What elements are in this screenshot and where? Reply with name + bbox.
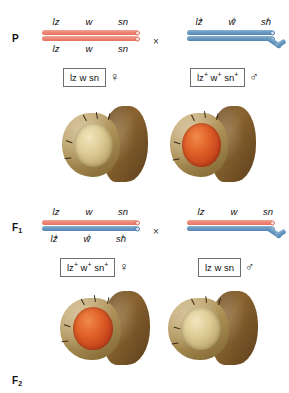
gene-label-sn: sn+ <box>266 16 270 28</box>
chromosome-x-maternal <box>42 220 138 225</box>
generation-label-p-text: P <box>12 33 19 44</box>
chromosome-x-maternal-2 <box>42 36 138 41</box>
parent-p-male: lz+ w+ sn+ <box>187 16 287 50</box>
chromosome-y-arm <box>187 36 273 41</box>
fly-photo-p-male <box>168 103 256 185</box>
gene-labels-bottom-f1-female: lz+ w+ sn+ <box>42 233 142 245</box>
fly-bristles <box>58 288 150 368</box>
chromosome-pair-f1-male <box>187 218 287 240</box>
fly-bristles <box>168 103 256 185</box>
generation-label-f2: F2 <box>12 375 22 386</box>
genotype-row-f1-male: lz w sn ♂ <box>198 258 254 277</box>
male-symbol-icon: ♂ <box>245 261 254 274</box>
gene-labels-top-f1-female: lz w sn <box>42 206 142 218</box>
cross-symbol-f1: × <box>153 226 159 237</box>
gene-label-lz: lz+ <box>199 16 203 28</box>
gene-label-w: w+ <box>232 16 236 28</box>
gene-labels-top-p-male: lz+ w+ sn+ <box>187 16 287 28</box>
chromosome-x-maternal <box>187 220 273 225</box>
centromere-dot <box>135 36 140 41</box>
cross-symbol-p: × <box>153 36 159 47</box>
genotype-box-p-female: lz w sn <box>63 68 106 87</box>
gene-labels-top-p-female: lz w sn <box>42 16 142 28</box>
chromosome-y-hook <box>267 35 287 51</box>
centromere-dot <box>135 220 140 225</box>
genotype-row-p-female: lz w sn ♀ <box>63 68 119 87</box>
chromosome-y-hook <box>267 225 287 241</box>
gene-label-sn: sn+ <box>121 233 125 245</box>
chromosome-pair-f1-female <box>42 218 142 232</box>
fly-photo-f1-male <box>166 288 258 368</box>
gene-label-w: w+ <box>87 233 91 245</box>
genetics-cross-figure: P × lz w sn lz <box>0 0 289 393</box>
female-symbol-icon: ♀ <box>110 71 119 84</box>
centromere-dot <box>135 30 140 35</box>
chromosome-x-paternal <box>187 30 273 35</box>
centromere-dot <box>135 226 140 231</box>
chromosome-x-paternal <box>42 226 138 231</box>
chromosome-pair-p-male <box>187 28 287 50</box>
generation-label-f1: F1 <box>12 222 22 233</box>
gene-label-lz: lz+ <box>54 233 58 245</box>
generation-label-p: P <box>12 33 19 44</box>
gene-labels-bottom-p-female: lz w sn <box>42 43 142 55</box>
generation-label-f1-sub: 1 <box>18 227 22 234</box>
female-symbol-icon: ♀ <box>119 261 128 274</box>
parent-f1-male: lz w sn <box>187 206 287 240</box>
fly-bristles <box>60 103 148 185</box>
fly-photo-f1-female <box>58 288 150 368</box>
chromosome-x-maternal-1 <box>42 30 138 35</box>
genotype-box-f1-female: lz+ w+ sn+ <box>60 258 115 277</box>
genotype-row-p-male: lz+ w+ sn+ ♂ <box>190 68 259 87</box>
genotype-row-f1-female: lz+ w+ sn+ ♀ <box>60 258 129 277</box>
fly-bristles <box>166 288 258 368</box>
chromosome-pair-p-female <box>42 28 142 42</box>
gene-labels-top-f1-male: lz w sn <box>187 206 287 218</box>
genotype-box-p-male: lz+ w+ sn+ <box>190 68 245 87</box>
generation-label-f2-sub: 2 <box>18 380 22 387</box>
male-symbol-icon: ♂ <box>249 71 258 84</box>
parent-p-female: lz w sn lz w sn <box>42 16 142 55</box>
fly-photo-p-female <box>60 103 148 185</box>
parent-f1-female: lz w sn lz+ w+ sn+ <box>42 206 142 245</box>
chromosome-y-arm <box>187 226 273 231</box>
genotype-box-f1-male: lz w sn <box>198 258 241 277</box>
